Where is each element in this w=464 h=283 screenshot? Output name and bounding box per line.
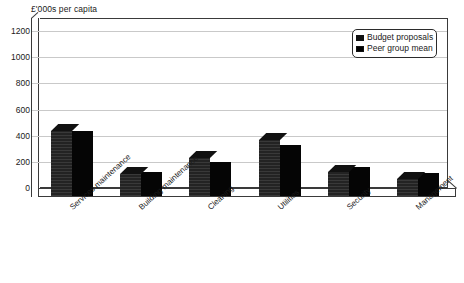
x-tick-label: Building maintenance [137, 154, 200, 212]
legend-swatch-icon [356, 46, 364, 52]
legend-label: Peer group mean [367, 43, 433, 54]
legend-label: Budget proposals [367, 32, 433, 43]
x-tick-label: Utilities [276, 188, 301, 212]
x-tick-label: Cleaning [206, 184, 235, 212]
bar-chart: £'000s per capita 020040060080010001200 … [0, 0, 464, 283]
legend-swatch-icon [356, 35, 364, 41]
x-tick-label: Management [414, 174, 455, 212]
legend-item-peer-group-mean: Peer group mean [356, 43, 433, 54]
x-tick-label: Services maintenance [68, 152, 133, 211]
chart-legend: Budget proposals Peer group mean [352, 29, 437, 58]
legend-item-budget-proposals: Budget proposals [356, 32, 433, 43]
x-tick-label: Security [345, 186, 373, 212]
